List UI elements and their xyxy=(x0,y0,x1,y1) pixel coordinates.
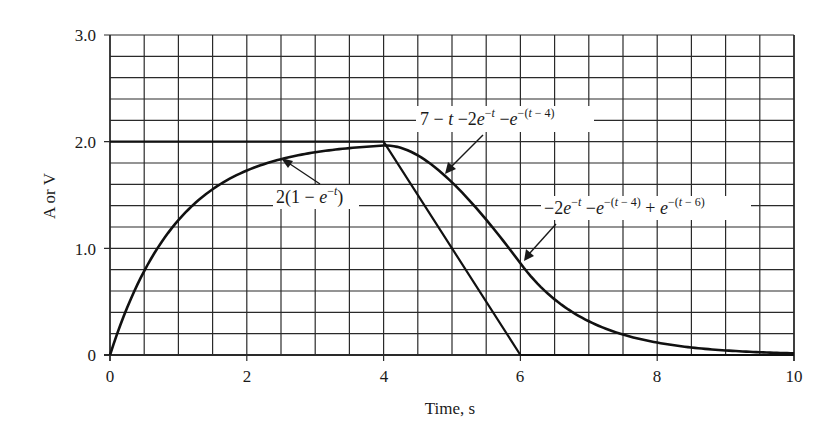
y-tick-2: 2.0 xyxy=(75,133,96,152)
annotation-segment-2: 7 − t −2e−t −e−(t − 4) xyxy=(416,106,594,174)
y-tick-3: 3.0 xyxy=(75,26,96,45)
y-tick-1: 1.0 xyxy=(75,240,96,259)
response-chart: 0 1.0 2.0 3.0 0 2 4 6 8 10 Time, s A or … xyxy=(0,0,840,438)
x-tick-4: 8 xyxy=(653,367,662,386)
annotation-segment-3: −2e−t −e−(t − 4) + e−(t − 6) xyxy=(524,195,751,261)
annotation-segment-1: 2(1 − e−t) xyxy=(273,158,359,209)
x-tick-5: 10 xyxy=(786,367,803,386)
x-tick-1: 2 xyxy=(243,367,252,386)
x-tick-3: 6 xyxy=(516,367,525,386)
x-tick-0: 0 xyxy=(106,367,115,386)
y-tick-0: 0 xyxy=(88,346,97,365)
x-axis-label: Time, s xyxy=(425,399,475,418)
x-tick-2: 4 xyxy=(380,367,389,386)
y-axis-label: A or V xyxy=(40,172,59,219)
